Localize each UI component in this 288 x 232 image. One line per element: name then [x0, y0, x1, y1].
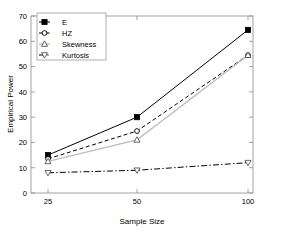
legend-label: HZ [62, 29, 72, 38]
chart-figure: 010203040506070 2550100 Sample Size Empi… [0, 0, 288, 232]
y-tick-label: 50 [19, 62, 27, 71]
x-tick-label: 100 [242, 197, 255, 206]
x-tick-label: 50 [133, 197, 141, 206]
data-point-filled-square [134, 115, 139, 120]
data-point-circle [135, 129, 140, 134]
legend-label: Skewness [62, 40, 96, 49]
y-tick-label: 30 [19, 113, 27, 122]
data-point-filled-square [245, 27, 250, 32]
data-point-circle [42, 31, 47, 36]
legend-label: E [62, 18, 67, 27]
x-tick-label: 25 [44, 197, 52, 206]
chart-legend: EHZSkewnessKurtosis [37, 13, 106, 60]
legend-label: Kurtosis [62, 51, 89, 60]
x-axis-title: Sample Size [120, 217, 165, 226]
y-tick-label: 20 [19, 138, 27, 147]
y-tick-label: 10 [19, 164, 27, 173]
y-tick-label: 40 [19, 88, 27, 97]
y-tick-label: 0 [23, 189, 27, 198]
data-point-filled-square [42, 19, 47, 24]
y-axis-title: Empirical Power [6, 75, 15, 133]
y-tick-label: 60 [19, 37, 27, 46]
y-tick-label: 70 [19, 12, 27, 21]
empirical-power-line-chart: 010203040506070 2550100 Sample Size Empi… [0, 0, 288, 232]
